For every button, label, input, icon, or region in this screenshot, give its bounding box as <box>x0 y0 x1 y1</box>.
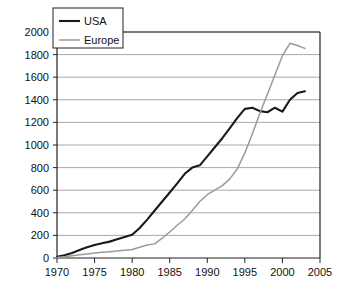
y-tick-label: 600 <box>31 184 49 196</box>
series-lines <box>57 43 305 257</box>
y-tick-label: 400 <box>31 207 49 219</box>
x-tick-label: 1970 <box>45 266 69 278</box>
y-tick-label: 800 <box>31 162 49 174</box>
y-tick-label: 0 <box>43 252 49 264</box>
x-tick-label: 1980 <box>120 266 144 278</box>
legend: USAEurope <box>53 8 123 48</box>
y-tick-label: 2000 <box>25 26 49 38</box>
series-line-usa <box>57 91 305 257</box>
x-tick-label: 1995 <box>233 266 257 278</box>
y-tick-label: 1800 <box>25 49 49 61</box>
x-tick-label: 1985 <box>157 266 181 278</box>
line-chart: 0200400600800100012001400160018002000 19… <box>0 0 344 292</box>
series-line-europe <box>57 43 305 257</box>
y-tick-label: 1600 <box>25 71 49 83</box>
x-tick-label: 1990 <box>195 266 219 278</box>
chart-canvas: 0200400600800100012001400160018002000 19… <box>0 0 344 292</box>
y-axis <box>53 28 57 258</box>
legend-label-europe: Europe <box>84 34 119 46</box>
x-tick-label: 1975 <box>82 266 106 278</box>
x-tick-label: 2005 <box>308 266 332 278</box>
y-tick-label: 1200 <box>25 116 49 128</box>
y-tick-label: 1400 <box>25 94 49 106</box>
y-tick-label: 1000 <box>25 139 49 151</box>
y-tick-labels: 0200400600800100012001400160018002000 <box>25 26 49 264</box>
x-tick-label: 2000 <box>270 266 294 278</box>
y-tick-label: 200 <box>31 229 49 241</box>
x-axis <box>57 258 320 263</box>
legend-label-usa: USA <box>84 15 107 27</box>
x-tick-labels: 19701975198019851990199520002005 <box>45 266 332 278</box>
